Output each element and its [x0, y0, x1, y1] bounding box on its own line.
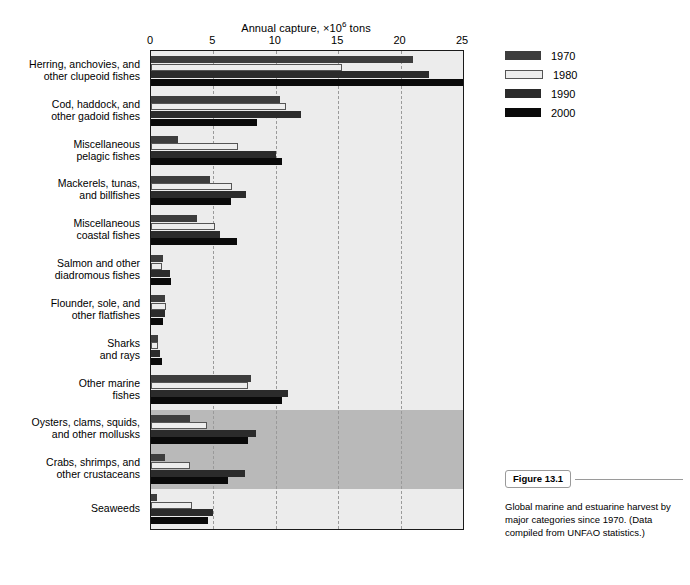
x-axis-title: Annual capture, ×106 tons [150, 20, 462, 34]
bar-1970 [151, 136, 178, 143]
legend-swatch [505, 70, 543, 79]
figure-caption-block: Figure 13.1 Global marine and estuarine … [505, 470, 683, 539]
bar-1970 [151, 176, 210, 183]
x-tick-label: 20 [393, 34, 405, 46]
bar-1990 [151, 191, 246, 198]
bar-1980 [151, 64, 342, 71]
bar-1980 [151, 303, 166, 310]
category-label: Sharks and rays [0, 337, 140, 361]
bar-1980 [151, 143, 238, 150]
bar-group [151, 51, 463, 91]
bar-1990 [151, 470, 245, 477]
bar-1980 [151, 223, 215, 230]
bar-1970 [151, 454, 165, 461]
legend-item: 1990 [505, 86, 577, 101]
bar-group [151, 410, 463, 450]
bar-2000 [151, 517, 208, 524]
figure-number-tag: Figure 13.1 [505, 470, 571, 488]
bar-group [151, 449, 463, 489]
legend-label: 1990 [551, 88, 575, 100]
category-label: Seaweeds [0, 502, 140, 514]
category-label: Cod, haddock, and other gadoid fishes [0, 98, 140, 122]
plot-area [150, 50, 464, 530]
x-tick-label: 15 [331, 34, 343, 46]
bar-2000 [151, 437, 248, 444]
bar-1990 [151, 270, 170, 277]
bar-1990 [151, 350, 160, 357]
category-label: Other marine fishes [0, 377, 140, 401]
legend-swatch [505, 51, 541, 60]
bar-group [151, 290, 463, 330]
legend-label: 2000 [551, 107, 575, 119]
bar-1990 [151, 231, 220, 238]
bar-1980 [151, 342, 158, 349]
x-tick-label: 25 [456, 34, 468, 46]
bar-1980 [151, 263, 162, 270]
bar-2000 [151, 318, 163, 325]
bar-group [151, 370, 463, 410]
legend-swatch [505, 89, 541, 98]
y-axis-category-labels: Herring, anchovies, and other clupeoid f… [0, 50, 146, 528]
bar-2000 [151, 397, 282, 404]
bar-1990 [151, 430, 256, 437]
bar-group [151, 91, 463, 131]
bar-1990 [151, 310, 165, 317]
legend-item: 1970 [505, 48, 577, 63]
category-label: Crabs, shrimps, and other crustaceans [0, 456, 140, 480]
x-tick-label: 10 [269, 34, 281, 46]
legend-label: 1980 [553, 69, 577, 81]
bar-2000 [151, 158, 282, 165]
bar-1990 [151, 111, 301, 118]
x-axis-tick-labels: 0510152025 [150, 34, 462, 48]
category-label: Oysters, clams, squids, and other mollus… [0, 416, 140, 440]
bar-1970 [151, 494, 157, 501]
bar-1970 [151, 255, 163, 262]
category-label: Herring, anchovies, and other clupeoid f… [0, 58, 140, 82]
bar-1990 [151, 509, 213, 516]
caption-tag-row: Figure 13.1 [505, 470, 683, 490]
category-label: Miscellaneous coastal fishes [0, 217, 140, 241]
bar-1980 [151, 422, 207, 429]
bar-group [151, 250, 463, 290]
x-axis-title-text: Annual capture, ×106 tons [241, 22, 371, 34]
bar-1970 [151, 295, 165, 302]
bar-1980 [151, 502, 192, 509]
bar-group [151, 330, 463, 370]
bar-1990 [151, 71, 429, 78]
bar-2000 [151, 358, 162, 365]
bar-2000 [151, 198, 231, 205]
bar-group [151, 210, 463, 250]
bar-group [151, 489, 463, 529]
bar-group [151, 131, 463, 171]
bar-2000 [151, 79, 463, 86]
category-label: Miscellaneous pelagic fishes [0, 138, 140, 162]
bar-1980 [151, 103, 286, 110]
caption-rule [575, 479, 683, 480]
legend-item: 1980 [505, 67, 577, 82]
bar-group [151, 171, 463, 211]
category-label: Flounder, sole, and other flatfishes [0, 297, 140, 321]
x-tick-label: 0 [147, 34, 153, 46]
bar-1990 [151, 151, 276, 158]
bar-1980 [151, 462, 190, 469]
legend-swatch [505, 108, 541, 117]
legend-item: 2000 [505, 105, 577, 120]
category-label: Salmon and other diadromous fishes [0, 257, 140, 281]
bar-1970 [151, 96, 280, 103]
bar-2000 [151, 119, 257, 126]
x-tick-label: 5 [209, 34, 215, 46]
bar-1990 [151, 390, 288, 397]
bar-1970 [151, 215, 197, 222]
figure-13-1: Annual capture, ×106 tons 0510152025 Her… [0, 0, 690, 585]
bar-1980 [151, 382, 248, 389]
figure-caption-text: Global marine and estuarine harvest by m… [505, 500, 683, 539]
bar-1970 [151, 335, 158, 342]
bar-2000 [151, 238, 237, 245]
legend-label: 1970 [551, 50, 575, 62]
bar-1980 [151, 183, 232, 190]
bar-2000 [151, 278, 171, 285]
bar-2000 [151, 477, 228, 484]
category-label: Mackerels, tunas, and billfishes [0, 177, 140, 201]
bar-1970 [151, 415, 190, 422]
bar-1970 [151, 56, 413, 63]
